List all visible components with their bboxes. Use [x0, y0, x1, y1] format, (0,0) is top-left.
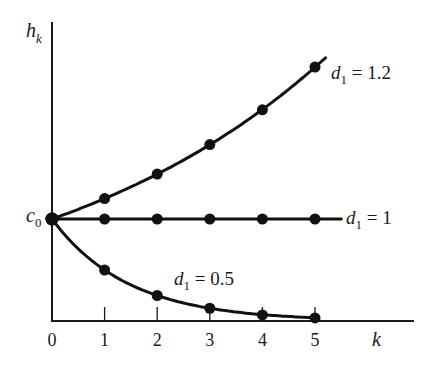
data-point — [310, 214, 321, 225]
data-point — [152, 290, 163, 301]
data-point — [257, 104, 268, 115]
series-label-d1-0.5: d1 = 0.5 — [174, 268, 234, 293]
c0-label: c0 — [26, 204, 41, 230]
data-point — [99, 265, 110, 276]
data-point — [204, 214, 215, 225]
x-tick-label: 5 — [311, 330, 320, 350]
data-point — [152, 169, 163, 180]
data-point — [204, 139, 215, 150]
x-axis-label: k — [372, 328, 382, 350]
x-tick-label: 4 — [258, 330, 267, 350]
series-line — [52, 58, 326, 219]
data-point — [152, 214, 163, 225]
data-point — [310, 312, 321, 323]
data-point — [99, 193, 110, 204]
series-label-d1-1: d1 = 1 — [346, 207, 392, 232]
x-tick-label: 3 — [205, 330, 214, 350]
data-point — [257, 214, 268, 225]
data-point — [257, 309, 268, 320]
data-point — [46, 213, 59, 226]
y-axis-label: hk — [26, 19, 42, 46]
chart: 012345 hk k c0 d1 = 1.2 d1 = 1 d1 = 0.5 — [0, 0, 437, 367]
data-point — [204, 303, 215, 314]
x-tick-label: 1 — [100, 330, 109, 350]
data-point — [310, 62, 321, 73]
series-line — [52, 219, 315, 318]
series-label-d1-1.2: d1 = 1.2 — [331, 62, 391, 87]
x-tick-labels: 012345 — [48, 330, 320, 350]
data-point — [99, 214, 110, 225]
x-tick-label: 0 — [48, 330, 57, 350]
x-tick-label: 2 — [153, 330, 162, 350]
